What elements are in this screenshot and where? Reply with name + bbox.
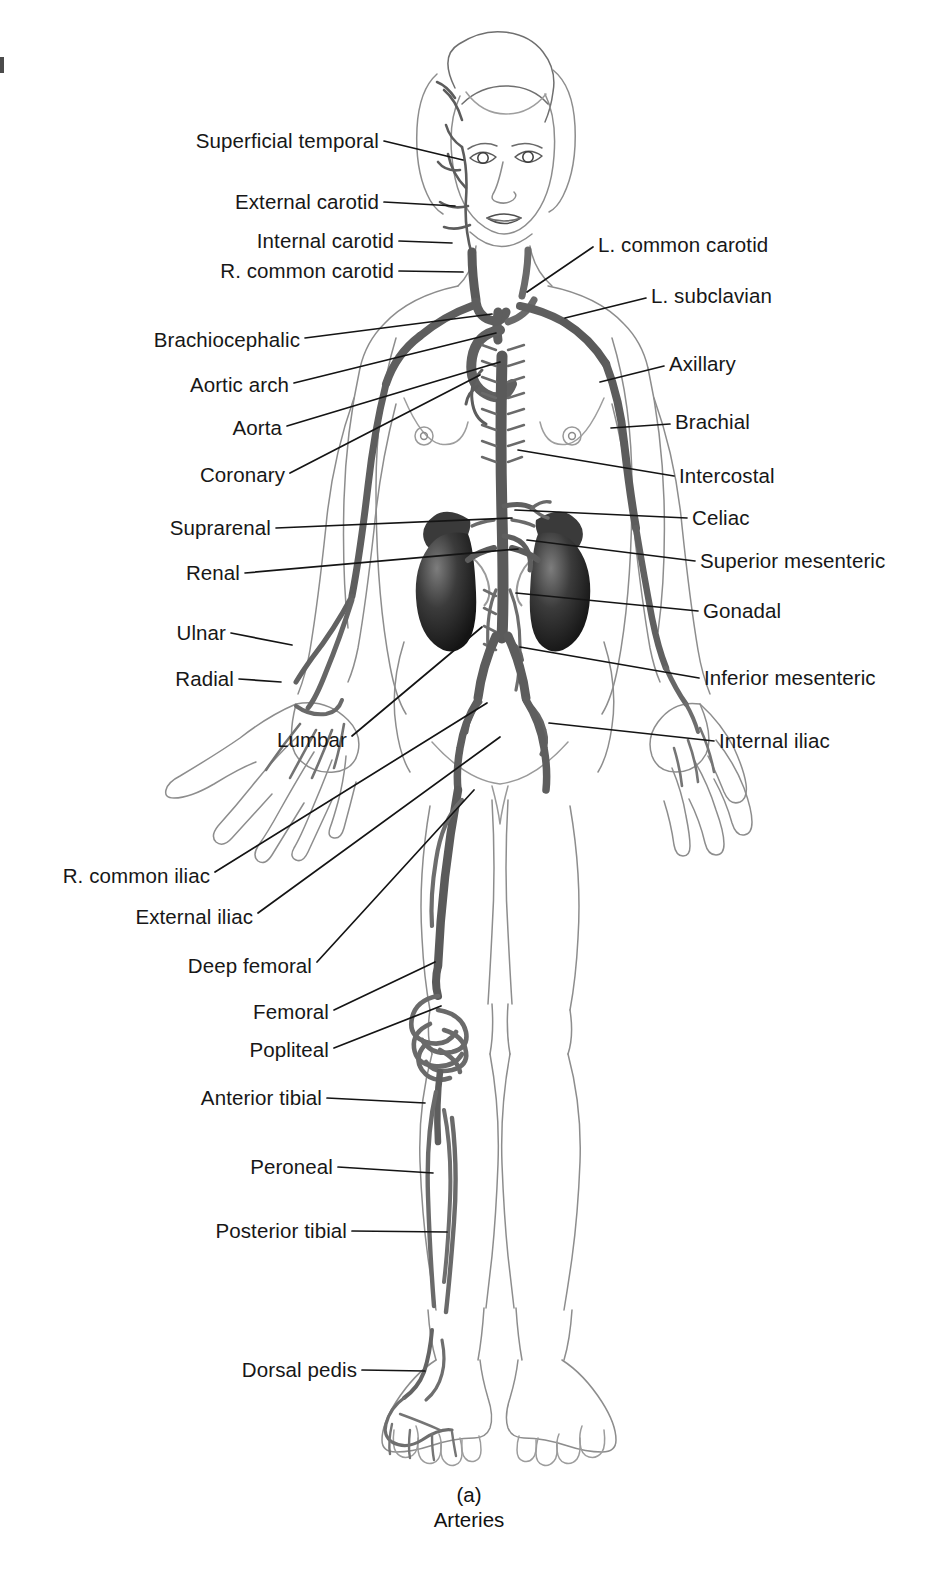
artery-tree bbox=[266, 82, 714, 1460]
label-inferior-mesenteric: Inferior mesenteric bbox=[704, 668, 876, 689]
label-anterior-tibial: Anterior tibial bbox=[201, 1088, 322, 1109]
label-aorta: Aorta bbox=[233, 418, 283, 439]
label-internal-carotid: Internal carotid bbox=[257, 231, 394, 252]
label-axillary: Axillary bbox=[669, 354, 736, 375]
label-gonadal: Gonadal bbox=[703, 601, 781, 622]
label-external-carotid: External carotid bbox=[235, 192, 379, 213]
label-deep-femoral: Deep femoral bbox=[188, 956, 312, 977]
label-posterior-tibial: Posterior tibial bbox=[216, 1221, 348, 1242]
label-femoral: Femoral bbox=[253, 1002, 329, 1023]
label-brachial: Brachial bbox=[675, 412, 750, 433]
leader-lines bbox=[215, 141, 714, 1371]
label-superior-mesenteric: Superior mesenteric bbox=[700, 551, 885, 572]
label-lumbar: Lumbar bbox=[277, 730, 347, 751]
figure-caption-letter: (a) bbox=[0, 1482, 938, 1507]
label-external-iliac: External iliac bbox=[135, 907, 253, 928]
label-suprarenal: Suprarenal bbox=[170, 518, 271, 539]
label-popliteal: Popliteal bbox=[249, 1040, 329, 1061]
page-edge-mark bbox=[0, 57, 4, 73]
label-r-common-carotid: R. common carotid bbox=[220, 261, 394, 282]
label-coronary: Coronary bbox=[200, 465, 285, 486]
label-aortic-arch: Aortic arch bbox=[190, 375, 289, 396]
label-renal: Renal bbox=[186, 563, 240, 584]
label-radial: Radial bbox=[175, 669, 234, 690]
label-celiac: Celiac bbox=[692, 508, 750, 529]
label-l-subclavian: L. subclavian bbox=[651, 286, 772, 307]
label-peroneal: Peroneal bbox=[250, 1157, 333, 1178]
label-brachiocephalic: Brachiocephalic bbox=[154, 330, 300, 351]
figure-caption-title: Arteries bbox=[0, 1507, 938, 1532]
kidneys-and-adrenal-glands bbox=[416, 512, 591, 652]
label-intercostal: Intercostal bbox=[679, 466, 775, 487]
anatomical-illustration bbox=[0, 0, 938, 1576]
label-ulnar: Ulnar bbox=[177, 623, 227, 644]
label-r-common-iliac: R. common iliac bbox=[63, 866, 210, 887]
label-superficial-temporal: Superficial temporal bbox=[196, 131, 379, 152]
figure-page: Superficial temporal External carotid In… bbox=[0, 0, 938, 1576]
label-l-common-carotid: L. common carotid bbox=[598, 235, 768, 256]
label-internal-iliac: Internal iliac bbox=[719, 731, 830, 752]
label-dorsal-pedis: Dorsal pedis bbox=[242, 1360, 357, 1381]
